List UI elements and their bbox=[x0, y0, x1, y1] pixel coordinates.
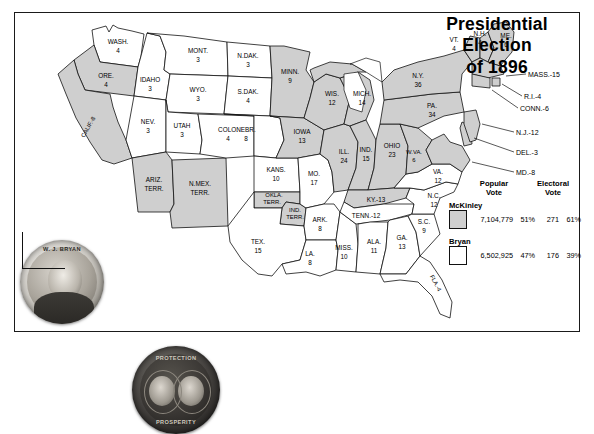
label-mo-votes: 17 bbox=[310, 179, 318, 186]
label-nev-votes: 3 bbox=[146, 127, 150, 134]
bryan-electoral-pct: 39% bbox=[559, 251, 581, 260]
label-nebr: NEBR. bbox=[236, 126, 256, 133]
mckinley-popular-pct: 51% bbox=[513, 215, 535, 224]
label-ark: ARK. bbox=[313, 216, 328, 223]
bryan-portrait-shoulders bbox=[34, 292, 94, 324]
state-north-dakota[interactable] bbox=[227, 42, 272, 78]
label-pa-votes: 34 bbox=[428, 111, 436, 118]
label-nmex-1: N.MEX. bbox=[189, 180, 211, 187]
electoral-vote-header: Electoral Vote bbox=[525, 180, 581, 197]
label-nc: N.C. bbox=[428, 192, 441, 199]
label-iowa-votes: 13 bbox=[298, 137, 306, 144]
label-wis: WIS. bbox=[325, 90, 339, 97]
results-row-bryan: 6,502,925 47% 176 39% bbox=[449, 246, 581, 265]
label-nj: N.J.-12 bbox=[516, 129, 539, 136]
bryan-popular-pct: 47% bbox=[513, 251, 535, 260]
title-line-1: Presidential bbox=[422, 14, 572, 35]
label-miss: MISS. bbox=[335, 244, 353, 251]
leader-labels: MASS.-15 R.I.-4 CONN.-6 N.J.-12 DEL.-3 M… bbox=[516, 71, 560, 176]
label-wash: WASH. bbox=[108, 38, 129, 45]
leader-line-md bbox=[472, 162, 514, 172]
label-ind: IND. bbox=[360, 146, 373, 153]
label-mont: MONT. bbox=[188, 47, 208, 54]
label-okla-2: TERR. bbox=[263, 199, 281, 205]
label-mont-votes: 3 bbox=[196, 56, 200, 63]
label-wyo: WYO. bbox=[189, 86, 206, 93]
label-minn: MINN. bbox=[281, 68, 299, 75]
label-nebr-votes: 8 bbox=[244, 135, 248, 142]
mckinley-electoral-vote: 271 bbox=[535, 215, 559, 224]
legend-swatch-mckinley bbox=[449, 210, 467, 229]
label-indt-1: IND. bbox=[289, 207, 301, 213]
leader-line-nj bbox=[482, 124, 514, 132]
label-sc: S.C. bbox=[418, 218, 431, 225]
state-kansas[interactable] bbox=[254, 156, 300, 192]
label-kans-votes: 10 bbox=[272, 175, 280, 182]
label-ore-votes: 4 bbox=[104, 81, 108, 88]
label-idaho: IDAHO bbox=[140, 76, 160, 83]
label-conn: CONN.-6 bbox=[520, 105, 549, 112]
candidate-name-mckinley: McKinley bbox=[449, 201, 581, 210]
state-rhode-island[interactable] bbox=[492, 78, 500, 86]
label-ga-votes: 13 bbox=[398, 243, 406, 250]
label-ala-votes: 11 bbox=[371, 247, 378, 254]
results-table: Popular Vote Electoral Vote McKinley 7,1… bbox=[449, 180, 581, 265]
bryan-electoral-vote: 176 bbox=[535, 251, 559, 260]
label-wis-votes: 12 bbox=[328, 99, 336, 106]
popular-vote-header-l2: Vote bbox=[463, 189, 525, 198]
label-sdak-votes: 4 bbox=[246, 97, 250, 104]
label-wva: W.VA. bbox=[406, 149, 422, 155]
label-ndak-votes: 3 bbox=[246, 61, 250, 68]
label-idaho-votes: 3 bbox=[148, 85, 152, 92]
label-iowa: IOWA bbox=[294, 128, 312, 135]
legend-swatch-bryan bbox=[449, 246, 467, 265]
label-la-votes: 8 bbox=[308, 259, 312, 266]
label-mich-votes: 14 bbox=[358, 99, 366, 106]
label-tex-votes: 15 bbox=[254, 247, 262, 254]
label-ark-votes: 8 bbox=[318, 225, 322, 232]
bryan-popular-vote: 6,502,925 bbox=[473, 251, 513, 260]
label-ky: KY.-13 bbox=[367, 196, 386, 203]
hobart-portrait-ring bbox=[173, 370, 211, 414]
label-sdak: S.DAK. bbox=[238, 88, 259, 95]
label-ny-votes: 36 bbox=[414, 81, 422, 88]
label-ri: R.I.-4 bbox=[524, 93, 541, 100]
mckinley-hobart-campaign-button: PROTECTION PROSPERITY bbox=[132, 346, 220, 434]
figure-title: Presidential Election of 1896 bbox=[422, 14, 572, 78]
label-tex: TEX. bbox=[251, 238, 265, 245]
label-wash-votes: 4 bbox=[116, 47, 120, 54]
label-ga: GA. bbox=[396, 234, 407, 241]
results-header-row: Popular Vote Electoral Vote bbox=[449, 180, 581, 197]
label-indt-2: TERR. bbox=[286, 214, 304, 220]
label-ariz-1: ARIZ. bbox=[146, 176, 163, 183]
button-connector-line bbox=[22, 232, 65, 269]
mckinley-popular-vote: 7,104,779 bbox=[473, 215, 513, 224]
results-row-mckinley: 7,104,779 51% 271 61% bbox=[449, 210, 581, 229]
label-kans: KANS. bbox=[266, 166, 285, 173]
label-okla-1: OKLA. bbox=[265, 192, 283, 198]
electoral-vote-header-l2: Vote bbox=[525, 189, 581, 198]
label-ind-votes: 15 bbox=[362, 155, 370, 162]
mckinley-button-text-bottom: PROSPERITY bbox=[132, 419, 220, 425]
label-nev: NEV. bbox=[141, 118, 156, 125]
state-wyoming[interactable] bbox=[166, 74, 228, 114]
label-ore: ORE. bbox=[98, 72, 114, 79]
label-del: DEL.-3 bbox=[516, 149, 538, 156]
label-ndak: N.DAK. bbox=[237, 52, 259, 59]
state-south-dakota[interactable] bbox=[224, 76, 272, 116]
mckinley-button-text-top: PROTECTION bbox=[132, 355, 220, 361]
label-sc-votes: 9 bbox=[422, 227, 426, 234]
candidate-name-bryan: Bryan bbox=[449, 237, 581, 246]
label-ill-votes: 24 bbox=[340, 157, 348, 164]
label-mich: MICH. bbox=[353, 90, 371, 97]
label-colo-votes: 4 bbox=[226, 135, 230, 142]
label-md: MD.-8 bbox=[516, 169, 535, 176]
label-tenn: TENN.-12 bbox=[352, 212, 381, 219]
popular-vote-header: Popular Vote bbox=[463, 180, 525, 197]
label-la: LA. bbox=[305, 250, 315, 257]
results-numbers-mckinley: 7,104,779 51% 271 61% bbox=[473, 215, 581, 224]
label-ohio: OHIO bbox=[384, 142, 400, 149]
label-nmex-2: TERR. bbox=[190, 189, 209, 196]
leader-line-del bbox=[474, 138, 514, 152]
